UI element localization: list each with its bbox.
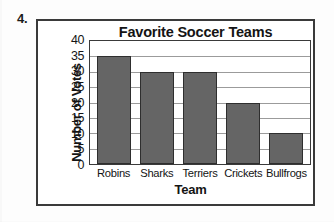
bar-series	[90, 41, 310, 164]
x-tick-label: Bullfrogs	[265, 167, 308, 179]
y-tick-label: 0	[77, 159, 84, 172]
x-tick-label: Terriers	[178, 167, 221, 179]
x-tick-label: Sharks	[135, 167, 178, 179]
y-tick-label: 10	[71, 128, 84, 141]
y-tick-label: 35	[71, 49, 84, 62]
chart-frame: Favorite Soccer Teams Number of Votes 40…	[36, 19, 315, 206]
y-axis-tick-labels: 40 35 30 25 20 15 10 5 0	[60, 40, 84, 165]
y-tick-label: 15	[71, 112, 84, 125]
bar-bullfrogs	[269, 133, 303, 164]
bar-crickets	[226, 103, 260, 165]
x-axis-title: Team	[38, 182, 313, 197]
y-tick-label: 5	[77, 143, 84, 156]
bar-terriers	[183, 72, 217, 164]
x-tick-label: Robins	[92, 167, 135, 179]
y-tick-label: 30	[71, 65, 84, 78]
y-tick-label: 20	[71, 96, 84, 109]
y-tick-label: 25	[71, 81, 84, 94]
question-number: 4.	[17, 11, 27, 26]
bar-sharks	[140, 72, 174, 164]
y-tick-label: 40	[71, 34, 84, 47]
plot-area	[89, 40, 311, 165]
bar-robins	[97, 56, 131, 164]
x-tick-label: Crickets	[222, 167, 265, 179]
